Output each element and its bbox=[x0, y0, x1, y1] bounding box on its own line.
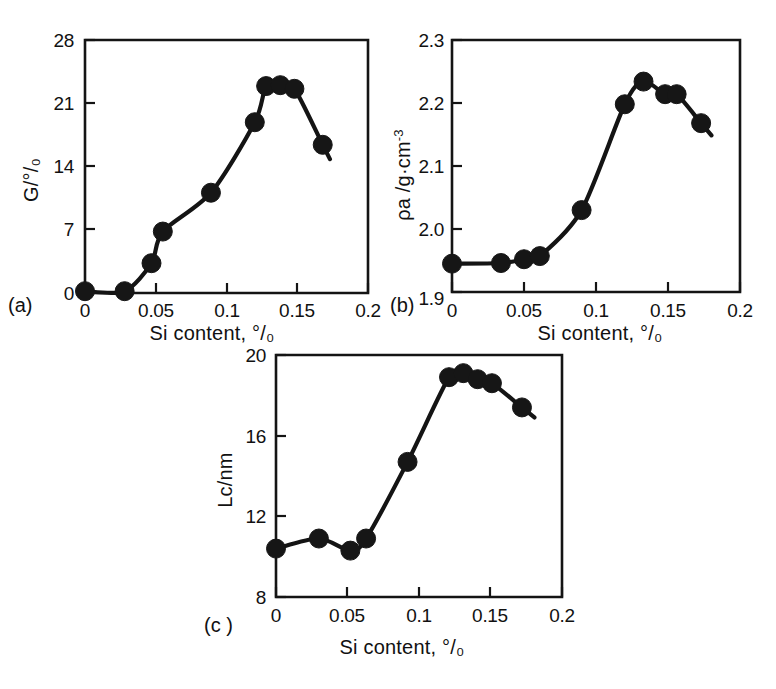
y-axis-title-b-exponent: -3 bbox=[391, 129, 406, 141]
series-markers-c bbox=[267, 364, 532, 560]
y-tick-label-b-4: 2.3 bbox=[418, 30, 444, 51]
x-tick-label-b-3: 0.15 bbox=[650, 300, 686, 321]
y-axis-title-b: ρa /g·cm-3 bbox=[391, 129, 414, 221]
plot-frame-c bbox=[276, 355, 562, 597]
y-tick-label-b-1: 2.0 bbox=[418, 219, 444, 240]
data-point bbox=[530, 247, 549, 266]
data-point bbox=[634, 72, 653, 91]
data-point bbox=[667, 85, 686, 104]
y-tick-label-a-0: 0 bbox=[64, 283, 74, 304]
data-point bbox=[341, 541, 360, 560]
chart-panel-a: 0 7 14 21 28 0 0.05 0.1 0.15 0.2 G/°/₀ S… bbox=[0, 0, 390, 345]
x-tick-label-b-1: 0.05 bbox=[506, 300, 542, 321]
x-axis-title-c: Si content, °/₀ bbox=[340, 636, 465, 658]
data-point bbox=[357, 529, 376, 548]
data-point bbox=[201, 183, 220, 202]
x-tick-label-a-4: 0.2 bbox=[355, 300, 381, 321]
y-tick-label-a-2: 14 bbox=[53, 156, 74, 177]
data-point bbox=[153, 222, 172, 241]
data-point bbox=[615, 95, 634, 114]
y-axis-ticks-a bbox=[85, 40, 95, 293]
data-series-b bbox=[443, 72, 712, 273]
x-tick-label-b-2: 0.1 bbox=[583, 300, 609, 321]
data-point bbox=[491, 254, 510, 273]
x-tick-label-c-3: 0.15 bbox=[472, 605, 508, 626]
x-tick-label-b-4: 0.2 bbox=[727, 300, 753, 321]
figure-container: 0 7 14 21 28 0 0.05 0.1 0.15 0.2 G/°/₀ S… bbox=[0, 0, 776, 689]
x-tick-label-c-4: 0.2 bbox=[549, 605, 575, 626]
x-tick-label-c-2: 0.1 bbox=[406, 605, 432, 626]
data-point bbox=[572, 201, 591, 220]
panel-label-c: (c ) bbox=[204, 614, 233, 636]
x-tick-label-a-2: 0.1 bbox=[214, 300, 240, 321]
x-tick-label-c-1: 0.05 bbox=[329, 605, 365, 626]
data-series-c bbox=[267, 364, 535, 560]
data-point bbox=[267, 539, 286, 558]
y-tick-label-c-0: 8 bbox=[256, 587, 266, 608]
x-tick-label-a-0: 0 bbox=[80, 300, 90, 321]
data-point bbox=[142, 254, 161, 273]
data-point bbox=[443, 254, 462, 273]
y-tick-label-c-3: 20 bbox=[245, 345, 266, 366]
x-axis-ticks-c bbox=[276, 587, 562, 597]
data-point bbox=[692, 114, 711, 133]
data-point bbox=[76, 282, 95, 301]
y-axis-title-a: G/°/₀ bbox=[20, 158, 42, 202]
x-axis-ticks-b bbox=[452, 282, 740, 292]
data-point bbox=[309, 529, 328, 548]
data-point bbox=[115, 282, 134, 301]
y-tick-label-a-1: 7 bbox=[64, 219, 74, 240]
data-point bbox=[245, 113, 264, 132]
panel-label-a: (a) bbox=[8, 294, 32, 316]
series-curve-b bbox=[452, 81, 711, 263]
x-tick-label-b-0: 0 bbox=[447, 300, 457, 321]
panel-label-b: (b) bbox=[390, 294, 414, 316]
x-tick-label-a-1: 0.05 bbox=[138, 300, 174, 321]
data-point bbox=[285, 79, 304, 98]
plot-frame-a bbox=[85, 40, 368, 293]
x-tick-label-a-3: 0.15 bbox=[279, 300, 315, 321]
data-series-a bbox=[76, 76, 333, 301]
x-tick-label-c-0: 0 bbox=[271, 605, 281, 626]
series-markers-a bbox=[76, 76, 333, 301]
y-tick-label-c-2: 16 bbox=[245, 426, 266, 447]
y-tick-label-a-3: 21 bbox=[53, 93, 74, 114]
chart-panel-b: 1.9 2.0 2.1 2.2 2.3 0 0.05 0.1 0.15 0.2 … bbox=[388, 0, 776, 345]
data-point bbox=[482, 374, 501, 393]
chart-panel-c: 8 12 16 20 0 0.05 0.1 0.15 0.2 Lc/nm Si … bbox=[190, 340, 610, 689]
data-point bbox=[512, 398, 531, 417]
y-tick-label-b-0: 1.9 bbox=[418, 288, 444, 309]
y-axis-title-c: Lc/nm bbox=[214, 452, 236, 507]
plot-frame-b bbox=[452, 40, 740, 292]
y-axis-ticks-c bbox=[276, 355, 286, 597]
data-point bbox=[313, 135, 332, 154]
y-axis-title-b-main: ρa /g·cm bbox=[392, 141, 414, 221]
y-tick-label-a-4: 28 bbox=[53, 30, 74, 51]
series-markers-b bbox=[443, 72, 711, 273]
y-tick-label-b-3: 2.2 bbox=[418, 93, 444, 114]
y-tick-label-b-2: 2.1 bbox=[418, 156, 444, 177]
y-tick-label-c-1: 12 bbox=[245, 506, 266, 527]
data-point bbox=[398, 452, 417, 471]
